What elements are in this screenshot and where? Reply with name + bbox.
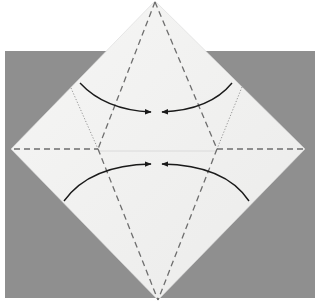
origami-diagram xyxy=(0,0,320,305)
diagram-canvas xyxy=(0,0,320,305)
